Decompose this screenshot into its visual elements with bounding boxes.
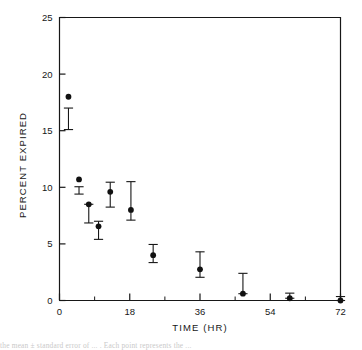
y-tick-label-5: 5 [47,238,52,249]
data-point-3 [96,223,102,229]
error-bars-group [64,108,345,300]
chart-canvas: 0510152025 018365472 TIME (HR) PERCENT E… [0,0,362,350]
error-bar-7 [195,252,204,277]
y-tick-label-25: 25 [42,12,53,23]
data-point-10 [338,298,344,304]
x-tick-label-0: 0 [57,306,62,317]
y-tick-label-15: 15 [42,125,53,136]
figure-container: 0510152025 018365472 TIME (HR) PERCENT E… [0,0,362,350]
data-point-5 [128,207,134,213]
figure-caption-text: the mean ± standard error of ... . Each … [0,341,362,350]
data-point-0 [66,94,72,100]
error-bar-1 [74,187,83,194]
x-tick-label-54: 54 [265,306,276,317]
data-point-2 [86,201,92,207]
y-axis-ticks [60,18,66,301]
y-axis-title: PERCENT EXPIRED [17,112,28,218]
error-bar-8 [238,273,247,293]
y-tick-label-20: 20 [42,69,53,80]
x-axis-title: TIME (HR) [172,322,227,333]
data-point-1 [76,176,82,182]
y-axis-tick-labels: 0510152025 [42,12,53,306]
data-point-4 [107,189,113,195]
figure-caption: the mean ± standard error of ... . Each … [0,341,362,350]
data-point-9 [287,295,293,301]
x-tick-label-36: 36 [195,306,206,317]
x-tick-label-72: 72 [335,306,346,317]
x-axis-ticks [60,294,341,301]
data-markers-group [66,94,344,304]
data-point-7 [197,266,203,272]
error-bar-0 [64,108,73,130]
error-bar-5 [126,182,135,220]
x-axis-tick-labels: 018365472 [57,306,346,317]
data-point-6 [150,252,156,258]
data-point-8 [240,291,246,297]
x-tick-label-18: 18 [124,306,135,317]
y-tick-label-10: 10 [42,182,53,193]
y-tick-label-0: 0 [47,295,52,306]
